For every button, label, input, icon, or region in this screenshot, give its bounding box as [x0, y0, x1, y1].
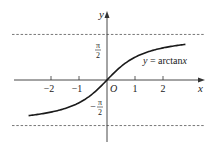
x-tick-label: −1 [72, 83, 83, 94]
y-tick-denominator: 2 [98, 108, 102, 117]
y-tick-numerator: π [98, 98, 102, 107]
y-axis-label: y [98, 8, 104, 20]
arctan-chart: −2−112π2π2−yxOy = arctanx [0, 0, 216, 151]
y-tick-denominator: 2 [96, 51, 100, 60]
x-tick-label: −2 [44, 83, 55, 94]
x-axis-label: x [197, 82, 203, 94]
origin-label: O [110, 83, 117, 94]
y-axis-arrow-icon [105, 11, 110, 18]
function-label: y = arctanx [142, 55, 188, 66]
y-tick-sign: − [90, 101, 96, 112]
y-tick-numerator: π [96, 41, 100, 50]
chart-labels: −2−112π2π2−yxOy = arctanx [44, 8, 203, 117]
x-tick-label: 2 [161, 83, 166, 94]
x-tick-label: 1 [133, 83, 138, 94]
